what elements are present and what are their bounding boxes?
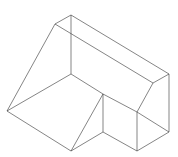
- edge-JL: [103, 132, 137, 151]
- edge-HI: [71, 94, 103, 151]
- edge-AD: [71, 15, 169, 74]
- edge-BG: [7, 24, 55, 111]
- edge-DE: [153, 74, 169, 83]
- edge-EK: [137, 83, 153, 112]
- edge-HJ: [71, 132, 103, 151]
- edge-BE: [55, 24, 153, 83]
- edge-GH: [7, 111, 71, 151]
- edge-FI: [71, 74, 103, 94]
- edge-GF: [7, 74, 71, 111]
- edge-LM: [137, 132, 169, 151]
- edge-KM: [137, 112, 169, 132]
- edge-IK: [103, 94, 137, 112]
- edge-AB: [55, 15, 71, 24]
- wireframe-solid-drawing: [0, 0, 178, 157]
